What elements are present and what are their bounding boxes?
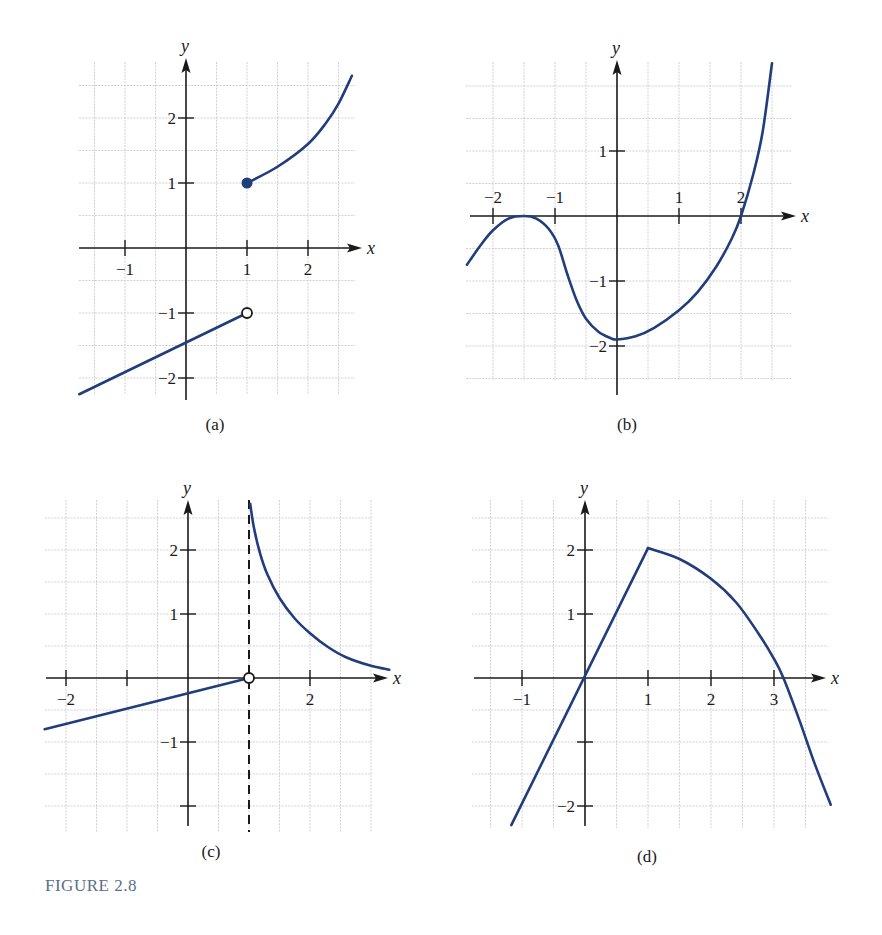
y-tick-label: 1 <box>170 605 179 624</box>
y-axis-label: y <box>578 478 588 498</box>
x-tick-label: −2 <box>484 188 502 207</box>
y-tick-label: −1 <box>158 304 176 323</box>
x-tick-label: −2 <box>57 690 75 709</box>
y-tick-label: 2 <box>170 541 179 560</box>
series-curve <box>250 504 389 670</box>
x-tick-label: 1 <box>675 188 684 207</box>
open-circle-icon <box>242 308 252 318</box>
panel-label: (d) <box>637 847 657 866</box>
figure-2-8: xy−112−2−112(a) xy−2−112−2−11(b) xy−22−1… <box>0 0 882 935</box>
x-tick-label: 2 <box>707 690 716 709</box>
grid <box>466 62 792 380</box>
y-axis-label: y <box>610 38 620 58</box>
y-tick-label: −2 <box>158 369 176 388</box>
x-axis-label: x <box>800 206 809 226</box>
y-tick-label: 2 <box>567 541 576 560</box>
series-curve <box>467 63 772 339</box>
panel-label: (c) <box>202 842 221 861</box>
y-tick-label: 2 <box>168 109 177 128</box>
y-tick-label: −1 <box>589 272 607 291</box>
filled-dot-icon <box>242 178 253 189</box>
grid <box>79 62 355 395</box>
x-tick-label: 2 <box>304 260 313 279</box>
y-tick-label: −1 <box>160 733 178 752</box>
x-tick-label: −1 <box>116 260 134 279</box>
panel-a: xy−112−2−112(a) <box>79 36 375 434</box>
series-curve <box>648 548 831 805</box>
panel-label: (b) <box>617 415 637 434</box>
y-axis-label: y <box>181 478 191 498</box>
x-tick-label: −1 <box>513 690 531 709</box>
x-tick-label: 1 <box>644 690 653 709</box>
panel-label: (a) <box>206 415 225 434</box>
panel-d: xy−1123−212(d) <box>472 478 839 866</box>
y-tick-label: 1 <box>567 605 576 624</box>
x-tick-label: 2 <box>306 690 315 709</box>
y-tick-label: 1 <box>599 142 608 161</box>
series-curve <box>247 76 352 183</box>
open-circle-icon <box>244 673 254 683</box>
x-tick-label: 3 <box>770 690 779 709</box>
panel-c: xy−22−112(c) <box>45 478 401 861</box>
y-tick-label: −2 <box>557 797 575 816</box>
x-axis-label: x <box>392 668 401 688</box>
panel-b: xy−2−112−2−11(b) <box>466 38 809 434</box>
x-axis-label: x <box>830 668 839 688</box>
y-tick-label: 1 <box>168 174 177 193</box>
x-tick-label: −1 <box>546 188 564 207</box>
x-tick-label: 1 <box>243 260 252 279</box>
grid <box>45 500 372 832</box>
figure-caption: FIGURE 2.8 <box>45 876 137 896</box>
series-curve <box>511 548 648 825</box>
y-axis-label: y <box>179 36 189 56</box>
x-axis-label: x <box>366 238 375 258</box>
y-tick-label: −2 <box>589 337 607 356</box>
